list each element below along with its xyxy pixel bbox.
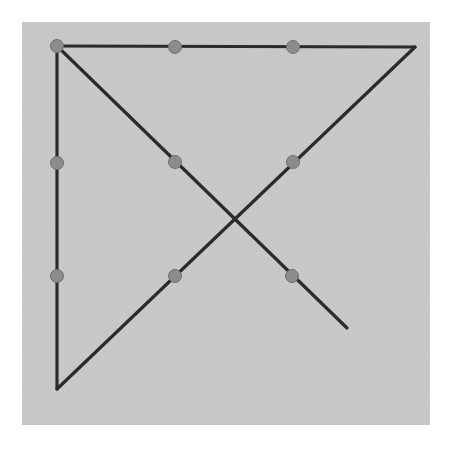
- top-horizontal-line: [56, 46, 415, 47]
- point-inner-lower-right[interactable]: [286, 270, 299, 283]
- point-inner-lower-left[interactable]: [169, 270, 182, 283]
- figure-root: [0, 0, 463, 450]
- point-top-mid-left[interactable]: [169, 41, 182, 54]
- point-top-mid-right[interactable]: [287, 41, 300, 54]
- line-figure-canvas: [0, 0, 463, 450]
- point-inner-upper-left[interactable]: [169, 156, 182, 169]
- point-inner-upper-right[interactable]: [287, 156, 300, 169]
- point-left-lower[interactable]: [51, 270, 64, 283]
- point-top-left-corner[interactable]: [51, 40, 64, 53]
- point-left-upper[interactable]: [51, 157, 64, 170]
